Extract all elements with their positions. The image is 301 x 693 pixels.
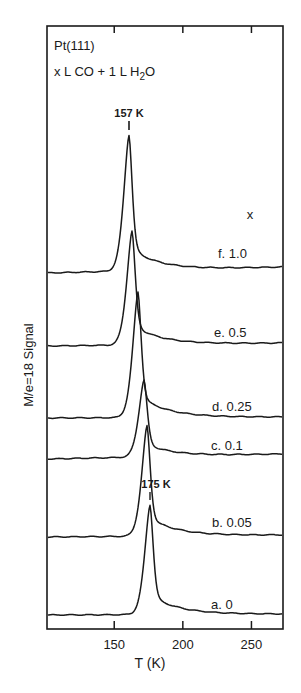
- y-axis-label: M/e=18 Signal: [21, 323, 36, 407]
- chart-subtitle: x L CO + 1 L H2O: [54, 64, 155, 82]
- x-tick-label: 150: [103, 637, 125, 652]
- legend-header: x: [247, 207, 254, 222]
- x-tick-label: 200: [172, 637, 194, 652]
- series-label-a: a. 0: [211, 597, 233, 612]
- series-label-b: b. 0.05: [212, 515, 252, 530]
- series-label-f: f. 1.0: [218, 246, 247, 261]
- series-label-c: c. 0.1: [211, 438, 243, 453]
- x-tick-label: 250: [241, 637, 263, 652]
- tpd-chart: 150200250 Pt(111) x L CO + 1 L H2O 157 K…: [0, 0, 301, 693]
- annotation-157k: 157 K: [114, 107, 143, 119]
- trace-c: [48, 380, 282, 459]
- annotation-175k: 175 K: [141, 478, 170, 490]
- plot-frame: [47, 26, 283, 629]
- series-labels: f. 1.0e. 0.5d. 0.25c. 0.1b. 0.05a. 0: [211, 246, 252, 612]
- chart-title: Pt(111): [54, 38, 95, 53]
- x-axis-label: T (K): [135, 655, 166, 671]
- series-label-d: d. 0.25: [212, 399, 252, 414]
- series-label-e: e. 0.5: [214, 325, 247, 340]
